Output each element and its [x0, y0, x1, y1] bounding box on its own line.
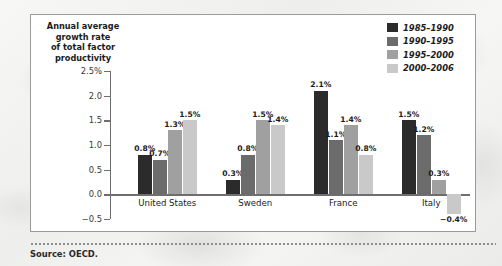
bar-value-label: 1.4%: [340, 115, 361, 124]
bar[interactable]: [153, 160, 167, 195]
y-axis-tick-label: −0.5: [82, 214, 110, 224]
y-axis-tick-label: 1.0: [89, 140, 110, 150]
zero-baseline: [110, 194, 470, 195]
legend-swatch-icon: [387, 37, 398, 46]
plot-area: 2.5%2.01.51.00.50.0−0.5 0.8%0.7%1.3%1.5%…: [110, 71, 470, 219]
bar-value-label: 1.2%: [413, 125, 434, 134]
y-axis-title-line-3: of total factor: [37, 42, 129, 53]
x-axis-category-label: Sweden: [238, 198, 272, 208]
y-axis-line: [110, 71, 111, 219]
legend-item[interactable]: 1990–1995: [387, 35, 454, 49]
footer-divider: [30, 243, 496, 245]
legend-item-label: 1995–2000: [403, 50, 454, 60]
bar[interactable]: [183, 120, 197, 194]
y-axis-tick-label: 2.0: [89, 91, 110, 101]
x-axis-category-label: Italy: [422, 198, 441, 208]
legend-swatch-icon: [387, 50, 398, 59]
bar[interactable]: [226, 180, 240, 195]
y-axis-title-line-4: productivity: [37, 53, 129, 64]
bar-value-label: 0.3%: [428, 169, 449, 178]
bar-value-label: 0.8%: [355, 144, 376, 153]
y-axis-title-line-2: growth rate: [37, 32, 129, 43]
bar[interactable]: [314, 91, 328, 195]
legend-item[interactable]: 1995–2000: [387, 48, 454, 62]
bar[interactable]: [447, 194, 461, 214]
legend-item[interactable]: 1985–1990: [387, 21, 454, 35]
bar[interactable]: [271, 125, 285, 194]
y-axis-tick-label: 0.5: [89, 165, 110, 175]
y-axis-tick-label: 2.5%: [81, 66, 110, 76]
bar-value-label: 1.5%: [398, 110, 419, 119]
chart-legend: 1985–19901990–19951995–20002000–2006: [387, 21, 454, 75]
figure-frame: Annual average growth rate of total fact…: [30, 14, 476, 232]
x-axis-category-label: United States: [138, 198, 196, 208]
bar[interactable]: [359, 155, 373, 194]
bar-value-label: 1.5%: [179, 110, 200, 119]
y-axis-tick-label: 1.5: [89, 115, 110, 125]
bar[interactable]: [344, 125, 358, 194]
bar-value-label: −0.4%: [440, 215, 467, 224]
legend-item-label: 1990–1995: [403, 36, 454, 46]
x-axis-category-label: France: [329, 198, 358, 208]
bar[interactable]: [168, 130, 182, 194]
bar[interactable]: [241, 155, 255, 194]
bar[interactable]: [138, 155, 152, 194]
bar[interactable]: [329, 140, 343, 194]
bar-value-label: 2.1%: [310, 80, 331, 89]
source-note: Source: OECD.: [30, 249, 98, 259]
bar-value-label: 1.4%: [267, 115, 288, 124]
legend-item-label: 1985–1990: [403, 23, 454, 33]
y-axis-title: Annual average growth rate of total fact…: [37, 21, 129, 63]
bar[interactable]: [432, 180, 446, 195]
y-axis-tick-label: 0.0: [89, 189, 110, 199]
bar[interactable]: [417, 135, 431, 194]
bar[interactable]: [256, 120, 270, 194]
legend-swatch-icon: [387, 23, 398, 32]
y-axis-title-line-1: Annual average: [37, 21, 129, 32]
